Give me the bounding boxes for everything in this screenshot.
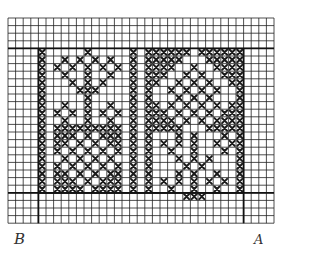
cross-stitch [207, 50, 212, 55]
cross-stitch [177, 126, 182, 131]
cross-stitch [85, 179, 90, 184]
cross-stitch [192, 80, 197, 85]
cross-stitch [169, 103, 174, 108]
cross-stitch [70, 164, 75, 169]
cross-stitch [55, 133, 60, 138]
cross-stitch [146, 95, 151, 100]
cross-stitch [222, 133, 227, 138]
cross-stitch [93, 141, 98, 146]
cross-stitch [131, 156, 136, 161]
cross-stitch [237, 156, 242, 161]
cross-stitch [146, 103, 151, 108]
cross-stitch [55, 179, 60, 184]
cross-stitch [131, 73, 136, 78]
cross-stitch [70, 80, 75, 85]
cross-stitch [108, 171, 113, 176]
cross-stitch [177, 50, 182, 55]
cross-stitch [177, 179, 182, 184]
cross-stitch [207, 80, 212, 85]
cross-stitch [63, 118, 68, 123]
corner-label-a: A [254, 232, 263, 247]
cross-stitch [230, 141, 235, 146]
cross-stitch [230, 126, 235, 131]
cross-stitch [146, 156, 151, 161]
cross-stitch [131, 95, 136, 100]
cross-stitch [230, 118, 235, 123]
cross-stitch [85, 95, 90, 100]
cross-stitch [101, 187, 106, 192]
cross-stitch [199, 88, 204, 93]
cross-stitch [146, 57, 151, 62]
cross-stitch [154, 118, 159, 123]
cross-stitch [40, 95, 45, 100]
cross-stitch [237, 111, 242, 116]
cross-stitch [222, 111, 227, 116]
cross-stitch [78, 88, 83, 93]
cross-stitch [40, 141, 45, 146]
cross-stitch [177, 171, 182, 176]
cross-stitch [40, 179, 45, 184]
cross-stitch [192, 65, 197, 70]
cross-stitch [70, 149, 75, 154]
cross-stitch [131, 126, 136, 131]
cross-stitch [108, 179, 113, 184]
cross-stitch [222, 149, 227, 154]
cross-stitch [237, 149, 242, 154]
cross-stitch [222, 65, 227, 70]
cross-stitch [154, 65, 159, 70]
cross-stitch [116, 179, 121, 184]
cross-stitch [101, 126, 106, 131]
cross-stitch [131, 187, 136, 192]
cross-stitch [85, 65, 90, 70]
cross-stitch [169, 88, 174, 93]
cross-stitch [154, 73, 159, 78]
cross-stitch [40, 88, 45, 93]
cross-stitch [169, 126, 174, 131]
cross-stitch [146, 80, 151, 85]
cross-stitch [199, 103, 204, 108]
cross-stitch [237, 80, 242, 85]
cross-stitch [108, 133, 113, 138]
cross-stitch [116, 126, 121, 131]
cross-stitch [63, 179, 68, 184]
cross-stitch [101, 133, 106, 138]
cross-stitch [101, 65, 106, 70]
cross-stitch [177, 133, 182, 138]
cross-stitch [237, 103, 242, 108]
cross-stitch [63, 187, 68, 192]
cross-stitch [184, 118, 189, 123]
cross-stitch [85, 88, 90, 93]
cross-stitch [192, 187, 197, 192]
cross-stitch [40, 80, 45, 85]
cross-stitch [108, 141, 113, 146]
cross-stitch [161, 50, 166, 55]
cross-stitch [131, 50, 136, 55]
cross-stitch [215, 187, 220, 192]
cross-stitch [230, 111, 235, 116]
cross-stitch [222, 118, 227, 123]
cross-stitch [169, 118, 174, 123]
cross-stitch [131, 103, 136, 108]
cross-stitch [108, 187, 113, 192]
cross-stitch [161, 118, 166, 123]
cross-stitch [85, 149, 90, 154]
cross-stitch [169, 149, 174, 154]
cross-stitch [177, 80, 182, 85]
cross-stitch [85, 103, 90, 108]
cross-stitch [40, 103, 45, 108]
cross-stitch [177, 57, 182, 62]
cross-stitch [237, 141, 242, 146]
cross-stitch [78, 156, 83, 161]
cross-stitch [40, 156, 45, 161]
cross-stitch [131, 111, 136, 116]
cross-stitch [215, 171, 220, 176]
cross-stitch [237, 164, 242, 169]
cross-stitch [207, 156, 212, 161]
cross-stitch [184, 88, 189, 93]
cross-stitch [199, 194, 204, 199]
cross-stitch [207, 126, 212, 131]
cross-stitch [93, 171, 98, 176]
cross-stitch [85, 164, 90, 169]
cross-stitch [40, 187, 45, 192]
cross-stitch [207, 57, 212, 62]
